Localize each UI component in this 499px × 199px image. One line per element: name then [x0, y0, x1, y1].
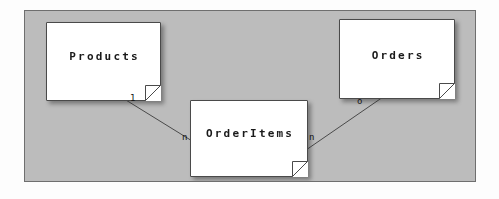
cardinality-products-side: 1 [130, 94, 135, 103]
note-orderitems[interactable]: OrderItems [190, 100, 308, 177]
diagram-frame: Products Orders OrderItems 1 n [24, 10, 476, 182]
diagram-canvas: Products Orders OrderItems 1 n [25, 11, 475, 181]
cardinality-orders-side: o [357, 97, 362, 106]
connector-orderitems-orders [306, 97, 383, 150]
note-products[interactable]: Products [46, 22, 161, 101]
note-label-orders: Orders [339, 49, 455, 62]
note-orders[interactable]: Orders [339, 19, 455, 99]
cardinality-orderitems-left: n [182, 133, 187, 142]
diagram-screenshot: Products Orders OrderItems 1 n [0, 0, 499, 199]
cardinality-orderitems-right: n [309, 133, 314, 142]
note-label-orderitems: OrderItems [190, 127, 308, 140]
note-label-products: Products [46, 50, 161, 63]
